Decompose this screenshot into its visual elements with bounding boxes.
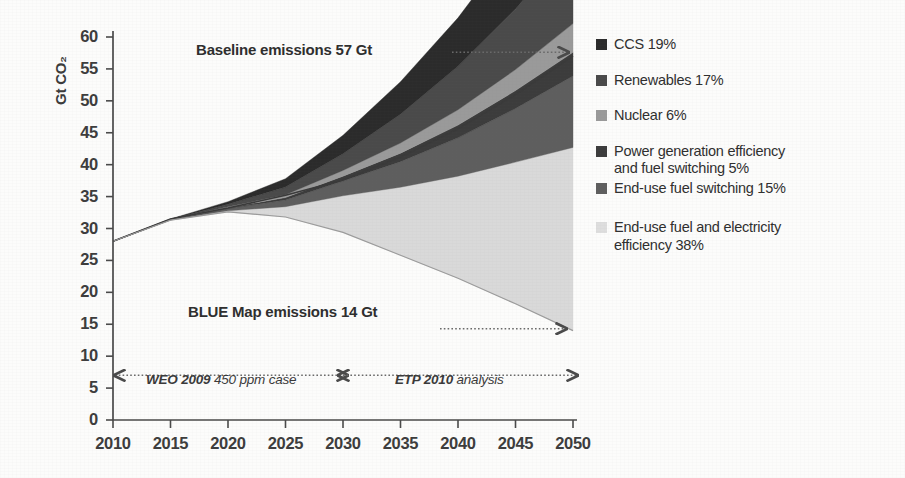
etp-annotation: ETP 2010 analysis: [395, 372, 504, 387]
chart-legend: CCS 19% Renewables 17% Nuclear 6% Power …: [596, 36, 896, 256]
legend-label-power-generation-efficiency-line2: and fuel switching 5%: [614, 160, 749, 176]
legend-label-renewables: Renewables 17%: [614, 72, 723, 90]
y-tick-label: 10: [58, 346, 98, 365]
x-tick-label: 2015: [143, 434, 199, 453]
x-tick-label: 2050: [545, 434, 601, 453]
x-tick-label: 2020: [200, 434, 256, 453]
x-tick-label: 2010: [85, 434, 141, 453]
weo-annotation: WEO 2009 450 ppm case: [146, 372, 296, 387]
x-tick-label: 2040: [430, 434, 486, 453]
legend-label-ccs: CCS 19%: [614, 36, 676, 54]
legend-swatch-end-use-fuel-switching: [596, 183, 607, 194]
legend-item-ccs: CCS 19%: [596, 36, 896, 54]
chart-figure: Gt CO₂ 051015202530354045505560 20102015…: [0, 0, 905, 478]
y-tick-label: 40: [58, 155, 98, 174]
y-tick-label: 20: [58, 282, 98, 301]
legend-label-end-use-fuel-switching: End-use fuel switching 15%: [614, 180, 786, 198]
bluemap-annotation: BLUE Map emissions 14 Gt: [188, 303, 377, 320]
legend-label-end-use-efficiency-line2: efficiency 38%: [614, 237, 704, 253]
etp-annotation-rest: analysis: [453, 372, 504, 387]
legend-item-renewables: Renewables 17%: [596, 72, 896, 90]
legend-swatch-ccs: [596, 39, 607, 50]
legend-swatch-power-generation-efficiency: [596, 146, 607, 157]
y-tick-label: 45: [58, 123, 98, 142]
y-tick-label: 0: [58, 410, 98, 429]
legend-swatch-renewables: [596, 75, 607, 86]
y-tick-label: 15: [58, 314, 98, 333]
x-tick-label: 2045: [488, 434, 544, 453]
weo-annotation-rest: 450 ppm case: [210, 372, 296, 387]
etp-annotation-bold: ETP 2010: [395, 372, 453, 387]
y-tick-label: 50: [58, 91, 98, 110]
y-tick-label: 5: [58, 378, 98, 397]
legend-label-end-use-efficiency-line1: End-use fuel and electricity: [614, 219, 781, 235]
y-tick-label: 60: [58, 27, 98, 46]
y-tick-label: 35: [58, 187, 98, 206]
x-tick-label: 2025: [258, 434, 314, 453]
legend-item-end-use-fuel-switching: End-use fuel switching 15%: [596, 180, 896, 198]
legend-swatch-nuclear: [596, 110, 607, 121]
y-tick-label: 30: [58, 219, 98, 238]
x-tick-label: 2035: [373, 434, 429, 453]
legend-label-nuclear: Nuclear 6%: [614, 107, 686, 125]
y-tick-label: 55: [58, 59, 98, 78]
legend-item-power-generation-efficiency: Power generation efficiency and fuel swi…: [596, 143, 896, 178]
y-tick-label: 25: [58, 250, 98, 269]
legend-swatch-end-use-efficiency: [596, 222, 607, 233]
baseline-annotation: Baseline emissions 57 Gt: [196, 41, 372, 58]
x-tick-label: 2030: [315, 434, 371, 453]
legend-item-nuclear: Nuclear 6%: [596, 107, 896, 125]
legend-item-end-use-efficiency: End-use fuel and electricity efficiency …: [596, 219, 896, 254]
legend-label-power-generation-efficiency-line1: Power generation efficiency: [614, 143, 785, 159]
weo-annotation-bold: WEO 2009: [146, 372, 210, 387]
